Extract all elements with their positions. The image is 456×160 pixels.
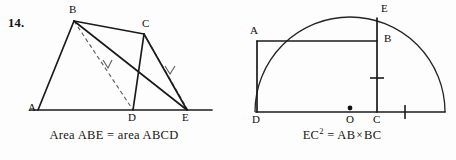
segment-be xyxy=(74,21,187,110)
segment-ce xyxy=(144,34,187,110)
caption-15-relation: = xyxy=(327,128,334,142)
multiplication-sign: × xyxy=(355,129,364,141)
figure-15: 15. A B C D E O EC2 = AB×BC xyxy=(228,0,456,160)
caption-15-lhs: EC xyxy=(303,128,320,142)
caption-15-rhs-right: BC xyxy=(364,128,381,142)
vertex-label-c: C xyxy=(373,114,380,125)
vertex-label-c: C xyxy=(142,18,149,29)
caption-15-exponent: 2 xyxy=(319,126,324,136)
segment-ab xyxy=(38,21,74,110)
vertex-label-o: O xyxy=(346,114,354,125)
figure-15-caption: EC2 = AB×BC xyxy=(228,128,456,143)
vertex-label-a: A xyxy=(28,102,36,113)
vertex-label-b: B xyxy=(69,4,76,15)
dashed-line-bd xyxy=(74,21,133,110)
caption-14-relation: = xyxy=(107,128,114,142)
segment-bc xyxy=(74,21,144,34)
center-point-o xyxy=(348,106,353,111)
vertex-label-d: D xyxy=(252,114,260,125)
vertex-label-d: D xyxy=(128,112,136,123)
figure-page: 14. A B C D E Area ABE = area ABCD xyxy=(0,0,456,160)
dashed-arrowhead-bd xyxy=(103,60,112,68)
caption-15-rhs-left: AB xyxy=(337,128,355,142)
caption-14-lhs: Area ABE xyxy=(49,128,103,142)
vertex-label-a: A xyxy=(250,25,258,36)
caption-14-rhs: area ABCD xyxy=(118,128,179,142)
vertex-label-e: E xyxy=(182,112,189,123)
vertex-label-b: B xyxy=(384,33,391,44)
vertex-label-e: E xyxy=(381,3,388,14)
figure-14-caption: Area ABE = area ABCD xyxy=(0,128,228,143)
figure-14: 14. A B C D E Area ABE = area ABCD xyxy=(0,0,228,160)
semicircle-arc xyxy=(255,17,445,112)
